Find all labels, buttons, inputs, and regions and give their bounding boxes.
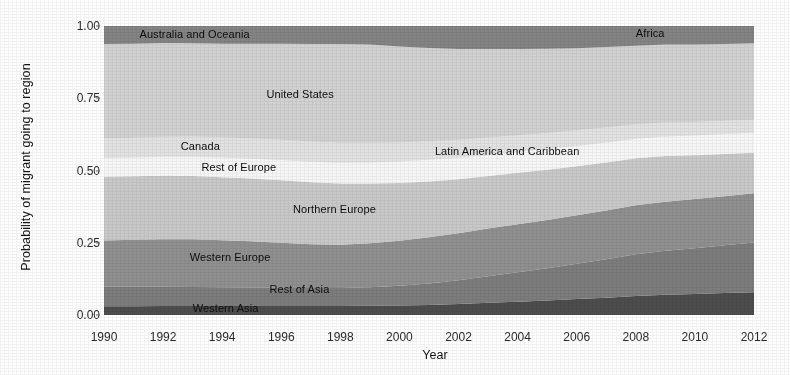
x-tick-label: 2012 xyxy=(724,330,784,344)
y-axis-title: Probability of migrant going to region xyxy=(19,37,33,297)
x-tick-label: 1994 xyxy=(192,330,252,344)
x-tick-label: 2004 xyxy=(488,330,548,344)
x-tick-label: 2008 xyxy=(606,330,666,344)
y-tick-mark xyxy=(96,170,100,171)
y-tick-label: 0.75 xyxy=(54,91,100,105)
y-tick-mark xyxy=(96,98,100,99)
x-tick-label: 1992 xyxy=(133,330,193,344)
y-tick-mark xyxy=(96,26,100,27)
x-tick-label: 1990 xyxy=(74,330,134,344)
y-tick-label: 0.50 xyxy=(54,164,100,178)
figure: Probability of migrant going to region 1… xyxy=(0,0,790,375)
y-tick-mark xyxy=(96,242,100,243)
x-tick-label: 2000 xyxy=(369,330,429,344)
x-tick-label: 2006 xyxy=(547,330,607,344)
x-axis-title: Year xyxy=(105,348,765,362)
y-axis-tick-labels: 1.000.750.500.250.00 xyxy=(44,0,100,375)
plot-area xyxy=(104,26,754,315)
y-tick-label: 1.00 xyxy=(54,19,100,33)
y-tick-label: 0.25 xyxy=(54,236,100,250)
x-tick-label: 1996 xyxy=(251,330,311,344)
stacked-area-svg xyxy=(104,26,754,315)
x-tick-label: 1998 xyxy=(310,330,370,344)
x-tick-label: 2010 xyxy=(665,330,725,344)
y-tick-mark xyxy=(96,315,100,316)
x-tick-label: 2002 xyxy=(429,330,489,344)
y-tick-label: 0.00 xyxy=(54,308,100,322)
